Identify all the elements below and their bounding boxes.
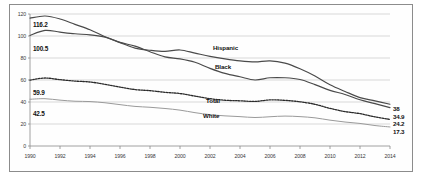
y-tick-label: 40 [6, 99, 26, 105]
x-tick-label: 2012 [346, 153, 374, 159]
y-tick-label: 100 [6, 33, 26, 39]
series-lines [30, 16, 390, 127]
series-line-black [30, 16, 390, 108]
x-tick-label: 1998 [136, 153, 164, 159]
x-tick-marks [30, 146, 390, 149]
y-tick-label: 120 [6, 11, 26, 17]
x-tick-label: 2014 [376, 153, 404, 159]
series-label-total: Total [206, 97, 220, 104]
start-value-total: 59.9 [33, 89, 45, 96]
series-line-hispanic [30, 30, 390, 104]
series-label-black: Black [215, 63, 231, 70]
gridlines [30, 14, 390, 124]
series-label-white: White [203, 112, 219, 119]
x-tick-label: 2006 [256, 153, 284, 159]
end-value-black: 34.9 [393, 113, 404, 120]
start-value-black: 116.2 [33, 21, 48, 28]
x-tick-label: 1994 [76, 153, 104, 159]
x-tick-label: 2004 [226, 153, 254, 159]
end-value-hispanic: 38 [393, 105, 399, 112]
x-tick-label: 2000 [166, 153, 194, 159]
x-tick-label: 1992 [46, 153, 74, 159]
x-tick-label: 2008 [286, 153, 314, 159]
x-tick-label: 2002 [196, 153, 224, 159]
end-value-white: 17.3 [393, 128, 404, 135]
start-value-white: 42.5 [33, 110, 45, 117]
y-tick-label: 80 [6, 55, 26, 61]
y-tick-label: 20 [6, 121, 26, 127]
x-tick-label: 1990 [16, 153, 44, 159]
y-tick-label: 0 [6, 143, 26, 149]
start-value-hispanic: 100.5 [33, 45, 48, 52]
x-tick-label: 1996 [106, 153, 134, 159]
series-label-hispanic: Hispanic [213, 44, 238, 51]
y-tick-label: 60 [6, 77, 26, 83]
x-tick-label: 2010 [316, 153, 344, 159]
end-value-total: 24.2 [393, 120, 404, 127]
